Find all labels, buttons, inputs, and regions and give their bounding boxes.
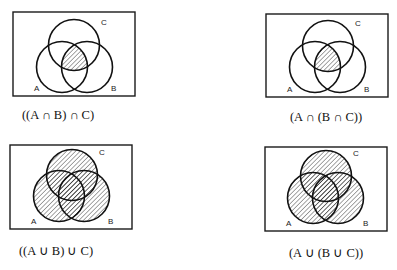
venn-panel-union-right: CAB(A ∪ (B ∪ C)) [265,147,387,260]
venn-panel-intersect-right: CAB(A ∩ (B ∩ C)) [266,14,388,124]
set-b-label: B [364,85,369,94]
venn-panel-union-left: CAB((A ∪ B) ∪ C) [10,145,132,258]
set-a-label: A [34,84,40,93]
set-b-label: B [111,84,116,93]
set-expression-caption: (A ∪ (B ∪ C)) [289,246,363,260]
set-expression-caption: ((A ∩ B) ∩ C) [22,108,94,122]
set-expression-caption: (A ∩ (B ∩ C)) [290,110,362,124]
set-c-label: C [355,19,361,28]
set-c-label: C [99,148,105,157]
venn-panel-intersect-left: CAB((A ∩ B) ∩ C) [13,12,135,122]
set-a-label: A [31,217,37,226]
set-a-label: A [286,219,292,228]
set-c-label: C [101,18,107,27]
set-b-label: B [363,219,368,228]
set-expression-caption: ((A ∪ B) ∪ C) [19,244,93,258]
venn-diagram-figure: CAB((A ∩ B) ∩ C)CAB(A ∩ (B ∩ C))CAB((A ∪… [0,0,397,270]
set-b-label: B [108,217,113,226]
set-c-label: C [353,149,359,158]
set-a-label: A [287,85,293,94]
